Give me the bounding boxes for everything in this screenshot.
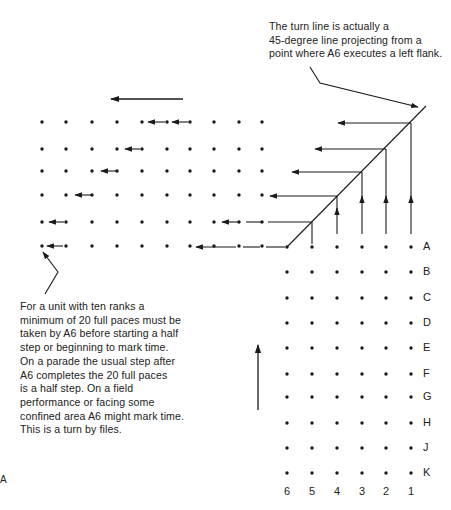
marcher-dot [140, 220, 143, 223]
marcher-dot [188, 244, 191, 247]
marcher-dot [310, 372, 313, 375]
marcher-dot [237, 244, 240, 247]
marcher-dot [140, 120, 143, 123]
marcher-dot [260, 169, 263, 172]
file-label-3: 3 [359, 485, 365, 497]
marcher-dot [335, 421, 338, 424]
file-label-6: 6 [284, 485, 290, 497]
marcher-dot [260, 147, 263, 150]
file-label-5: 5 [309, 485, 315, 497]
marcher-dot [188, 147, 191, 150]
marcher-dot [260, 244, 263, 247]
rank-label-c: C [423, 291, 431, 303]
marcher-dot [115, 120, 118, 123]
marcher-dot [360, 270, 363, 273]
rank-label-h: H [423, 416, 431, 428]
marcher-dot [140, 169, 143, 172]
marcher-dot [384, 421, 387, 424]
marcher-dot [260, 193, 263, 196]
marcher-dot [140, 244, 143, 247]
marcher-dot [237, 169, 240, 172]
marcher-dot [360, 395, 363, 398]
turn-by-files-note-line: This is a turn by files. [20, 423, 184, 437]
marcher-dot [360, 346, 363, 349]
marcher-dot [335, 321, 338, 324]
marcher-dot [188, 169, 191, 172]
turn-line-note-line: The turn line is actually a [269, 20, 442, 34]
turn-by-files-note-line: minimum of 20 full paces must be [20, 314, 184, 328]
marcher-dot [384, 395, 387, 398]
rank-label-g: G [423, 390, 432, 402]
marcher-dot [212, 193, 215, 196]
turn-by-files-note-line: For a unit with ten ranks a [20, 300, 184, 314]
marcher-dot [409, 446, 412, 449]
marcher-dot [260, 120, 263, 123]
marcher-dot [212, 220, 215, 223]
turn-by-files-note-line: performance or facing some [20, 396, 184, 410]
turn-by-files-note-line: step or beginning to mark time. [20, 341, 184, 355]
marcher-dot [360, 421, 363, 424]
marcher-dot [360, 471, 363, 474]
rank-label-d: D [423, 316, 431, 328]
rank-label-e: E [423, 341, 430, 353]
marcher-dot [115, 220, 118, 223]
marcher-dot [64, 193, 67, 196]
turn-by-files-note-line: A6 completes the 20 full paces [20, 369, 184, 383]
marcher-dot [165, 147, 168, 150]
marcher-dot [188, 220, 191, 223]
approaching-files-dot-grid [285, 245, 412, 474]
marcher-dot [90, 147, 93, 150]
marcher-dot [40, 147, 43, 150]
marcher-dot [360, 372, 363, 375]
marcher-dot [335, 296, 338, 299]
marcher-dot [165, 220, 168, 223]
marcher-dot [384, 296, 387, 299]
marcher-dot [335, 245, 338, 248]
turn-by-files-note-line: is a half step. On a field [20, 382, 184, 396]
marcher-dot [64, 169, 67, 172]
marcher-dot [40, 244, 43, 247]
turn-line-note: The turn line is actually a45-degree lin… [269, 20, 442, 61]
marcher-dot [335, 446, 338, 449]
file-label-4: 4 [334, 485, 340, 497]
marcher-dot [90, 169, 93, 172]
marcher-dot [165, 244, 168, 247]
marcher-dot [285, 395, 288, 398]
rank-label-f: F [423, 367, 430, 379]
marcher-dot [188, 193, 191, 196]
marcher-dot [285, 321, 288, 324]
turn-line-note-line: point where A6 executes a left flank. [269, 47, 442, 61]
marcher-dot [384, 471, 387, 474]
turn-line-note-line: 45-degree line projecting from a [269, 34, 442, 48]
marcher-dot [384, 245, 387, 248]
rank-label-k: K [423, 466, 430, 478]
marcher-dot [335, 346, 338, 349]
marcher-dot [40, 120, 43, 123]
marcher-dot [360, 245, 363, 248]
marcher-dot [115, 193, 118, 196]
marcher-dot [115, 147, 118, 150]
marcher-dot [384, 446, 387, 449]
marcher-dot [409, 270, 412, 273]
marcher-dot [409, 321, 412, 324]
marcher-dot [360, 321, 363, 324]
marcher-dot [409, 296, 412, 299]
marcher-dot [115, 244, 118, 247]
marcher-dot [409, 395, 412, 398]
marcher-dot [310, 321, 313, 324]
rank-label-j: J [423, 441, 429, 453]
rank-label-a: A [423, 240, 430, 252]
bottom-note-leader [43, 252, 58, 294]
marcher-dot [285, 372, 288, 375]
marcher-dot [40, 193, 43, 196]
marcher-dot [384, 270, 387, 273]
marcher-dot [384, 372, 387, 375]
marcher-dot [165, 169, 168, 172]
marcher-dot [165, 193, 168, 196]
marcher-dot [165, 120, 168, 123]
turned-files-dot-grid [40, 120, 263, 247]
file-path-lines [196, 123, 411, 247]
marcher-dot [409, 372, 412, 375]
marcher-dot [310, 421, 313, 424]
marcher-dot [140, 147, 143, 150]
